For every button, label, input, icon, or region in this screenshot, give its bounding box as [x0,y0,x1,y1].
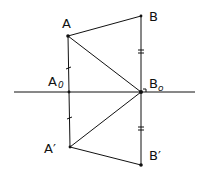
label-a0: A [48,74,57,89]
segment-a-a0 [68,36,69,92]
point-b [140,15,143,18]
label-b0: B [149,76,158,91]
segment-a1-b1 [70,147,141,165]
segment-a1-b0 [70,92,141,147]
label-a: A [62,16,71,31]
label-a0-sub: 0 [58,80,64,90]
label-b: B [149,9,158,24]
label-b0-sub: o [158,83,164,93]
segment-a-b0 [68,36,141,92]
point-b0 [139,90,143,94]
point-b1 [139,163,143,167]
point-a1 [69,146,72,149]
label-a1: A′ [44,141,56,156]
segment-a-b [68,16,141,36]
point-a0 [68,91,71,94]
reflection-diagram: A B A 0 B o A′ B′ [0,0,207,173]
segment-a0-a1 [69,92,70,147]
label-b1: B′ [149,148,161,163]
point-a [66,34,70,38]
